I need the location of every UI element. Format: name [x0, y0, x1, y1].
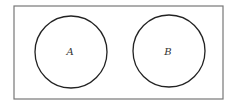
venn-diagram: A B — [0, 0, 234, 103]
set-a-label: A — [65, 46, 73, 57]
universe-rectangle — [14, 6, 223, 99]
set-b-label: B — [163, 46, 171, 57]
